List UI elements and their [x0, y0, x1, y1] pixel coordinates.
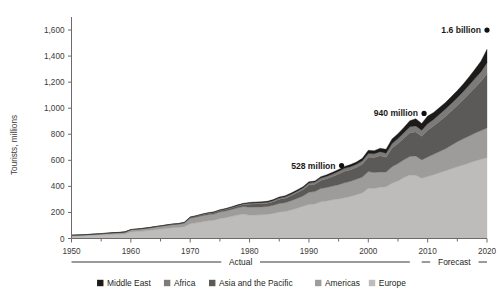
x-tick-label-1990: 1990	[300, 247, 319, 256]
legend-label: Asia and the Pacific	[219, 278, 293, 288]
y-tick-label-1400: 1,400	[44, 52, 65, 61]
legend-label: Africa	[174, 278, 196, 288]
x-tick-label-2000: 2000	[359, 247, 378, 256]
annotation-label: 940 million	[374, 108, 418, 118]
legend-swatch	[315, 280, 321, 286]
y-tick-label-400: 400	[51, 182, 65, 191]
chart-root: 02004006008001,0001,2001,4001,600 195019…	[0, 0, 499, 302]
y-tick-label-1200: 1,200	[44, 78, 65, 87]
annotation-label: 1.6 billion	[441, 25, 481, 35]
period-label: Forecast	[438, 257, 471, 267]
legend-label: Europe	[379, 278, 406, 288]
x-tick-label-2010: 2010	[419, 247, 438, 256]
annotation-label: 528 million	[291, 161, 335, 171]
period-label: Actual	[229, 257, 252, 267]
legend-swatch	[164, 280, 170, 286]
y-tick-label-800: 800	[51, 130, 65, 139]
legend-label: Americas	[325, 278, 360, 288]
tourism-stacked-area-chart: 02004006008001,0001,2001,4001,600 195019…	[0, 0, 499, 302]
y-tick-label-200: 200	[51, 208, 65, 217]
legend-item-asia-and-the-pacific[interactable]: Asia and the Pacific	[209, 278, 293, 288]
y-tick-label-600: 600	[51, 156, 65, 165]
annotation-marker	[421, 111, 426, 116]
x-tick-label-1980: 1980	[240, 247, 259, 256]
chart-legend: Middle EastAfricaAsia and the PacificAme…	[97, 278, 406, 288]
annotation-marker	[339, 163, 344, 168]
legend-swatch	[209, 280, 215, 286]
y-tick-label-0: 0	[60, 235, 65, 244]
x-tick-label-2020: 2020	[478, 247, 497, 256]
legend-swatch	[97, 280, 103, 286]
y-tick-label-1600: 1,600	[44, 26, 65, 35]
legend-swatch	[369, 280, 375, 286]
annotation-marker	[484, 27, 489, 32]
y-tick-label-1000: 1,000	[44, 104, 65, 113]
x-tick-label-1970: 1970	[181, 247, 200, 256]
legend-label: Middle East	[107, 278, 151, 288]
x-tick-label-1960: 1960	[122, 247, 141, 256]
y-axis-title: Tourists, millions	[10, 115, 19, 175]
x-tick-label-1950: 1950	[62, 247, 81, 256]
